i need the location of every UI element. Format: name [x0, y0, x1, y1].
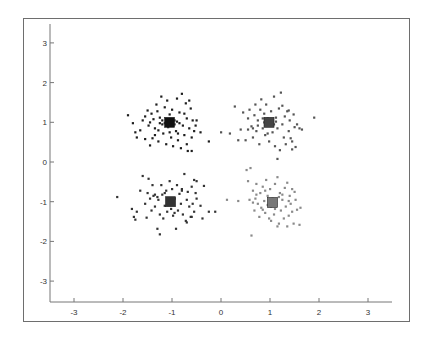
data-point — [172, 145, 174, 147]
data-point — [264, 212, 266, 214]
data-point — [192, 119, 194, 121]
data-point — [284, 115, 286, 117]
data-point — [281, 194, 283, 196]
data-point — [294, 199, 296, 201]
data-point — [132, 122, 134, 124]
data-point — [164, 106, 166, 108]
data-point — [134, 131, 136, 133]
data-point — [154, 205, 156, 207]
y-tick-label: -3 — [40, 277, 48, 286]
data-point — [283, 217, 285, 219]
data-point — [185, 102, 187, 104]
data-point — [133, 216, 135, 218]
data-point — [183, 134, 185, 136]
data-point — [181, 93, 183, 95]
data-point — [249, 167, 251, 169]
data-point — [274, 145, 276, 147]
data-point — [285, 143, 287, 145]
data-point — [175, 228, 177, 230]
data-point — [173, 212, 175, 214]
data-point — [226, 199, 228, 201]
y-ticks: 3210-1-2-3 — [40, 39, 54, 286]
data-point — [171, 188, 173, 190]
data-point — [170, 136, 172, 138]
data-point — [280, 209, 282, 211]
data-point — [149, 121, 151, 123]
data-point — [190, 107, 192, 109]
y-tick-label: 1 — [43, 118, 48, 127]
data-point — [291, 140, 293, 142]
data-point — [247, 180, 249, 182]
data-point — [288, 109, 290, 111]
data-point — [176, 184, 178, 186]
data-point — [146, 217, 148, 219]
data-point — [193, 179, 195, 181]
data-point — [171, 109, 173, 111]
data-point — [191, 216, 193, 218]
data-point — [144, 138, 146, 140]
data-point — [278, 223, 280, 225]
data-point — [177, 132, 179, 134]
data-point — [237, 139, 239, 141]
data-point — [275, 121, 277, 123]
data-point — [186, 221, 188, 223]
data-point — [248, 199, 250, 201]
data-point — [182, 213, 184, 215]
data-point — [293, 223, 295, 225]
data-point — [273, 95, 275, 97]
data-point — [262, 209, 264, 211]
data-point — [159, 213, 161, 215]
centroid-marker — [267, 197, 277, 207]
data-point — [203, 185, 205, 187]
data-point — [276, 127, 278, 129]
data-point — [281, 199, 283, 201]
data-point — [178, 193, 180, 195]
data-point — [283, 136, 285, 138]
data-point — [275, 117, 277, 119]
data-point — [281, 123, 283, 125]
data-point — [259, 109, 261, 111]
data-point — [252, 201, 254, 203]
data-point — [142, 119, 144, 121]
data-point — [150, 113, 152, 115]
data-point — [254, 103, 256, 105]
data-point — [156, 228, 158, 230]
data-point — [177, 209, 179, 211]
data-point — [176, 97, 178, 99]
data-point — [164, 192, 166, 194]
centroid-marker — [165, 117, 175, 127]
data-point — [245, 169, 247, 171]
data-point — [156, 110, 158, 112]
axes — [50, 24, 392, 302]
data-point — [134, 219, 136, 221]
data-point — [151, 137, 153, 139]
data-point — [263, 113, 265, 115]
data-point — [298, 224, 300, 226]
data-point — [166, 211, 168, 213]
data-point — [298, 127, 300, 129]
data-point — [147, 192, 149, 194]
data-point — [299, 207, 301, 209]
data-point — [147, 109, 149, 111]
x-tick-label: 2 — [317, 308, 322, 317]
data-point — [188, 99, 190, 101]
data-point — [166, 99, 168, 101]
data-point — [288, 215, 290, 217]
data-point — [259, 192, 261, 194]
data-point — [214, 211, 216, 213]
x-tick-label: 3 — [366, 308, 371, 317]
data-point — [288, 130, 290, 132]
data-point — [274, 183, 276, 185]
data-point — [157, 129, 159, 131]
data-point — [172, 215, 174, 217]
data-point — [296, 123, 298, 125]
data-point — [152, 118, 154, 120]
y-tick-label: 2 — [43, 79, 48, 88]
data-point — [149, 198, 151, 200]
data-point — [252, 136, 254, 138]
data-point — [192, 203, 194, 205]
data-point — [193, 130, 195, 132]
data-point — [186, 117, 188, 119]
data-point — [279, 192, 281, 194]
data-point — [147, 124, 149, 126]
